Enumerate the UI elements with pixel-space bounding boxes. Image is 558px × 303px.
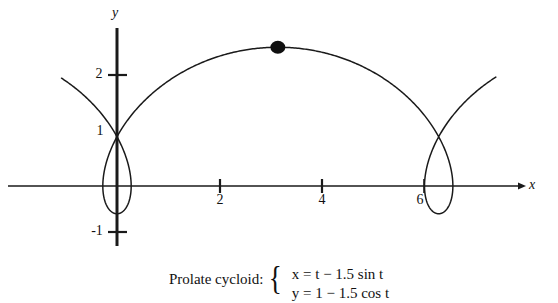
caption-equations: x = t − 1.5 sin t y = 1 − 1.5 cos t	[288, 262, 389, 303]
figure-container: x y 2 1 -1 2 4 6 Prolate cycloid: { x = …	[0, 0, 558, 303]
y-tick-label-1: 1	[93, 123, 107, 139]
y-tick-label-neg1: -1	[88, 223, 106, 239]
x-axis-label: x	[529, 177, 535, 193]
caption-brace: {	[269, 262, 282, 293]
x-tick-label-6: 6	[413, 192, 427, 208]
prolate-cycloid-plot	[0, 0, 558, 303]
cycloid-curve	[62, 47, 496, 214]
x-tick-label-4: 4	[315, 192, 329, 208]
caption-title: Prolate cycloid:	[169, 262, 264, 288]
x-tick-label-2: 2	[213, 192, 227, 208]
y-tick-label-2: 2	[92, 66, 106, 82]
y-axis-label: y	[112, 5, 118, 21]
equation-y: y = 1 − 1.5 cos t	[292, 284, 389, 303]
x-axis	[8, 183, 526, 190]
highlighted-point-marker	[270, 41, 285, 54]
equation-x: x = t − 1.5 sin t	[292, 265, 389, 284]
figure-caption: Prolate cycloid: { x = t − 1.5 sin t y =…	[0, 262, 558, 303]
